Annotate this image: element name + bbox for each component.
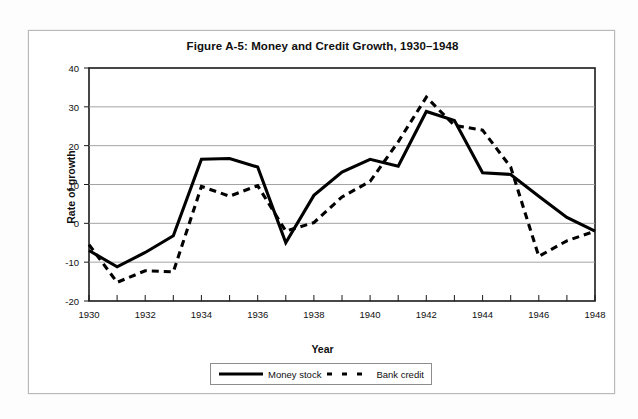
x-tick-label: 1948 — [584, 309, 605, 320]
figure-frame: Figure A-5: Money and Credit Growth, 193… — [28, 30, 615, 394]
x-tick-label: 1944 — [472, 309, 493, 320]
legend-item-money-stock: Money stock — [218, 369, 321, 380]
y-tick-label: -10 — [65, 257, 79, 268]
y-tick-label: 40 — [68, 63, 79, 74]
x-tick-label: 1946 — [528, 309, 549, 320]
x-tick-label: 1932 — [135, 309, 156, 320]
x-tick-label: 1940 — [360, 309, 381, 320]
chart-plot-area: 40 30 20 10 0 -10 -20 1930 1932 1934 193… — [29, 31, 616, 395]
legend-item-bank-credit: Bank credit — [326, 369, 424, 380]
legend-label-money-stock: Money stock — [268, 369, 321, 380]
x-tick-label: 1934 — [191, 309, 212, 320]
x-axis-title: Year — [29, 343, 616, 355]
legend-solid-line-icon — [218, 369, 264, 379]
legend-label-bank-credit: Bank credit — [376, 369, 424, 380]
chart-legend: Money stock Bank credit — [210, 363, 432, 385]
x-tick-label: 1938 — [303, 309, 324, 320]
figure-page: Figure A-5: Money and Credit Growth, 193… — [0, 0, 638, 419]
grid-and-frame — [89, 68, 595, 301]
x-tick-label: 1942 — [416, 309, 437, 320]
x-tick-label: 1936 — [247, 309, 268, 320]
x-tick-labels: 1930 1932 1934 1936 1938 1940 1942 1944 … — [78, 309, 605, 320]
legend-dashed-line-icon — [326, 369, 372, 379]
y-axis-title: Rate of growth — [65, 127, 77, 247]
y-tick-label: 30 — [68, 102, 79, 113]
y-tick-label: -20 — [65, 296, 79, 307]
x-tick-label: 1930 — [78, 309, 99, 320]
